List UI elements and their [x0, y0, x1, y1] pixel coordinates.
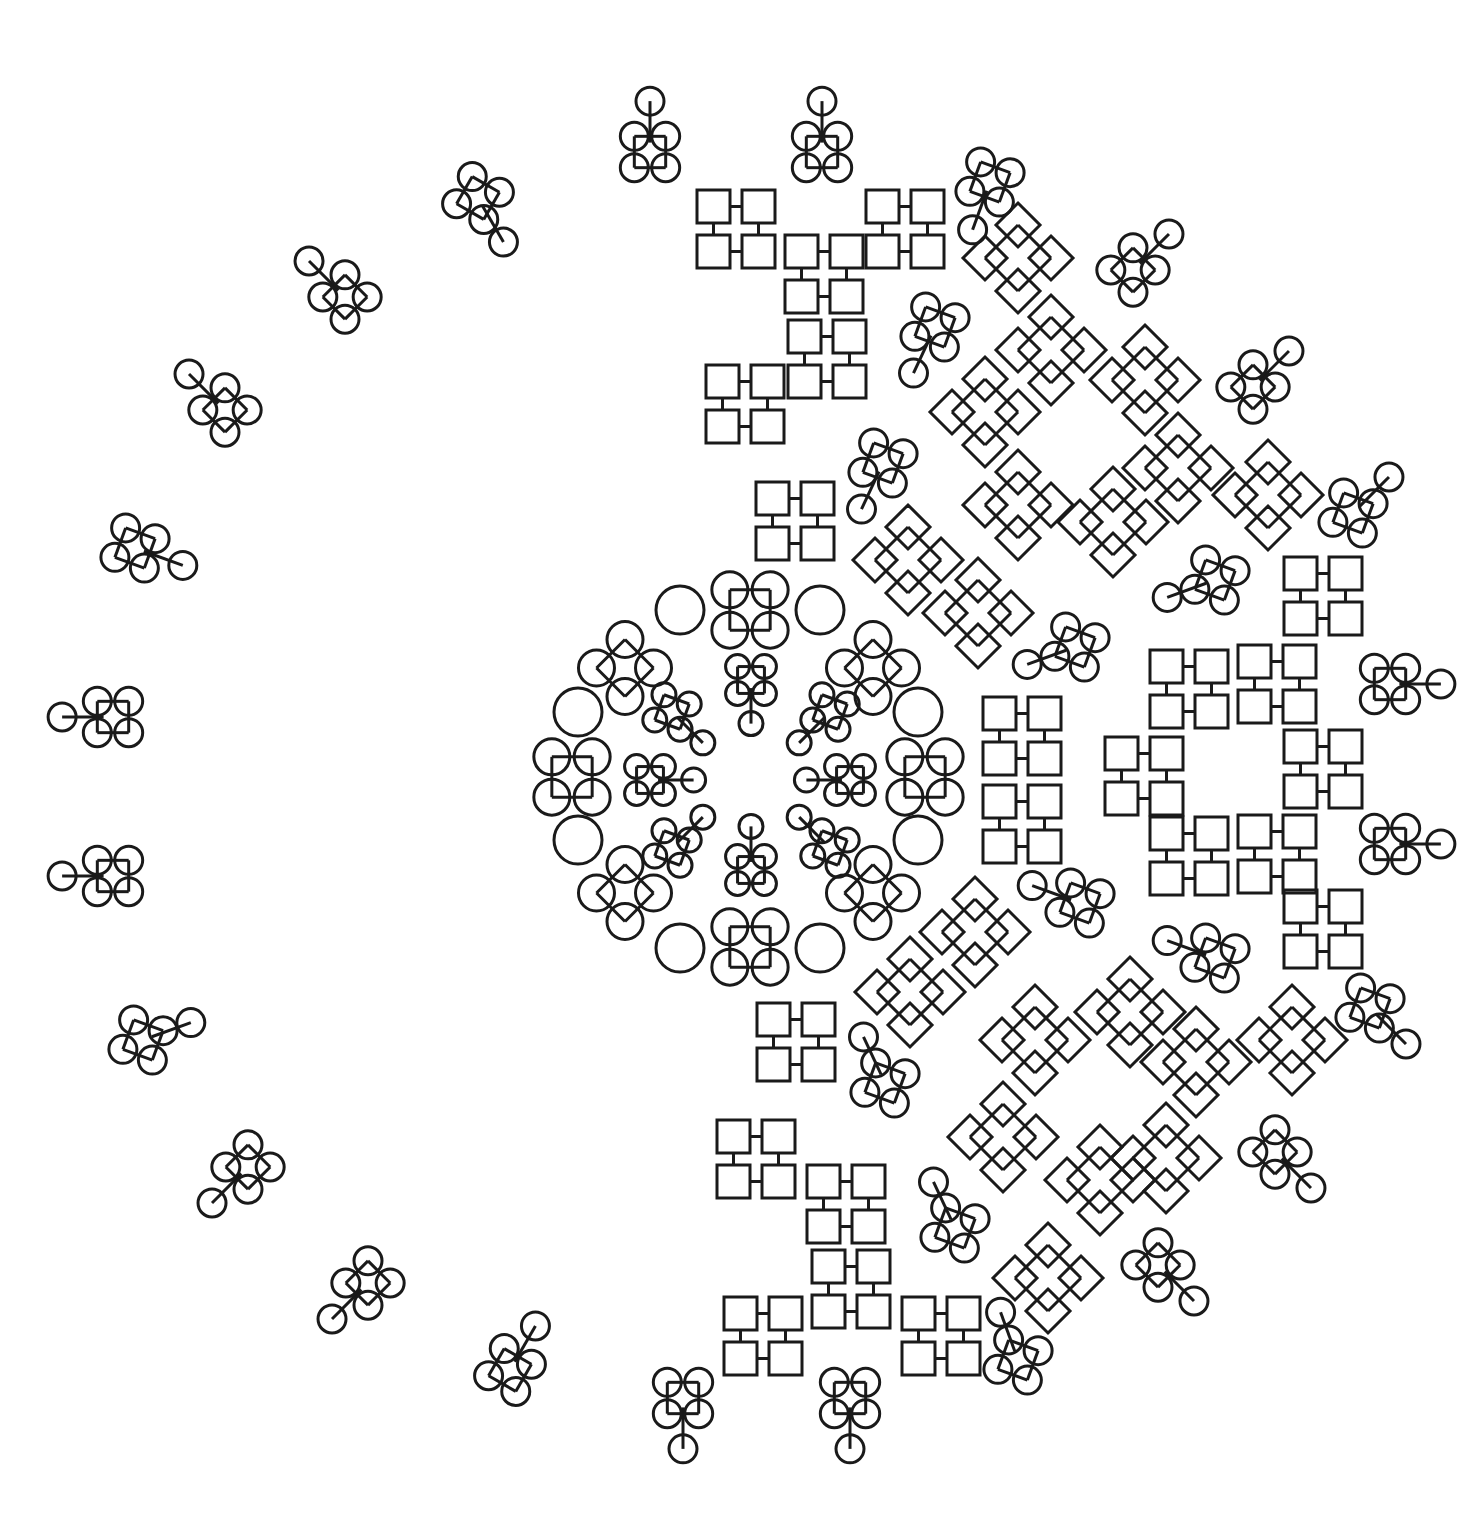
- square-node: [751, 365, 784, 398]
- square-node: [902, 1342, 935, 1375]
- square-node: [1105, 782, 1138, 815]
- connector-line: [1111, 248, 1133, 270]
- circle-cluster: [792, 87, 851, 182]
- circle-cluster: [820, 1368, 879, 1463]
- circle-cluster: [109, 1006, 205, 1074]
- square-node: [756, 482, 789, 515]
- diamond-cluster: [1213, 440, 1323, 550]
- square-node: [812, 1295, 845, 1328]
- diamond-cluster: [923, 558, 1033, 668]
- diamond-cluster: [930, 357, 1040, 467]
- ring-bridge-circle: [554, 816, 602, 864]
- connector-line: [346, 1261, 368, 1283]
- ring-inner-cluster: [726, 655, 777, 736]
- square-cluster: [1284, 890, 1362, 968]
- square-node: [1283, 690, 1316, 723]
- square-node: [706, 365, 739, 398]
- square-node: [1028, 697, 1061, 730]
- ring-inner-cluster: [625, 755, 706, 806]
- square-node: [947, 1342, 980, 1375]
- square-node: [1028, 830, 1061, 863]
- square-node: [812, 1250, 845, 1283]
- connector-line: [248, 1145, 270, 1167]
- circle-cluster: [475, 1312, 550, 1405]
- square-node: [1028, 785, 1061, 818]
- circle-cluster: [848, 429, 918, 523]
- connector-line: [368, 1261, 390, 1283]
- square-node: [801, 482, 834, 515]
- square-node: [757, 1048, 790, 1081]
- circle-clusters: [48, 87, 1455, 1463]
- connector-line: [625, 893, 654, 922]
- connector-line: [248, 1167, 270, 1189]
- square-node: [1283, 645, 1316, 678]
- circle-cluster: [1360, 654, 1455, 713]
- ring-bridge-circle: [656, 586, 704, 634]
- connector-line: [873, 668, 902, 697]
- connector-line: [596, 639, 625, 668]
- connector-line: [1253, 1130, 1275, 1152]
- square-node: [785, 235, 818, 268]
- diamond-cluster: [920, 877, 1030, 987]
- square-cluster: [724, 1297, 802, 1375]
- circle-cluster: [48, 687, 143, 746]
- circle-cluster: [1360, 814, 1455, 873]
- ring-inner-cluster: [643, 683, 715, 755]
- square-node: [769, 1297, 802, 1330]
- spoke-circle-node: [177, 1009, 205, 1037]
- square-node: [1283, 860, 1316, 893]
- connector-line: [596, 668, 625, 697]
- square-node: [762, 1165, 795, 1198]
- circle-cluster: [900, 293, 970, 387]
- connector-line: [1158, 1243, 1180, 1265]
- square-node: [785, 280, 818, 313]
- circle-cluster: [1319, 463, 1403, 547]
- square-cluster: [706, 365, 784, 443]
- square-node: [1150, 817, 1183, 850]
- connector-line: [1253, 1152, 1275, 1174]
- square-node: [697, 235, 730, 268]
- spoke-circle-node: [489, 228, 517, 256]
- square-node: [852, 1165, 885, 1198]
- square-node: [1284, 890, 1317, 923]
- square-node: [983, 697, 1016, 730]
- square-node: [1329, 890, 1362, 923]
- circle-cluster: [1153, 924, 1249, 992]
- square-node: [902, 1297, 935, 1330]
- connector-line: [625, 668, 654, 697]
- diamond-cluster: [1237, 985, 1347, 1095]
- square-node: [802, 1003, 835, 1036]
- circle-cluster: [48, 846, 143, 905]
- ring-bridge-circle: [796, 586, 844, 634]
- diamond-cluster: [855, 937, 965, 1047]
- square-cluster: [697, 190, 775, 268]
- square-cluster: [1150, 650, 1228, 728]
- connector-line: [873, 639, 902, 668]
- connector-line: [596, 893, 625, 922]
- center-ring: [534, 572, 963, 985]
- connector-line: [1231, 365, 1253, 387]
- circle-cluster: [653, 1368, 712, 1463]
- square-node: [751, 410, 784, 443]
- connector-line: [226, 1145, 248, 1167]
- connector-line: [1111, 270, 1133, 292]
- square-node: [1283, 815, 1316, 848]
- connector-line: [1136, 1243, 1158, 1265]
- connector-line: [625, 639, 654, 668]
- square-node: [866, 235, 899, 268]
- square-node: [1238, 690, 1271, 723]
- square-cluster: [756, 482, 834, 560]
- square-node: [947, 1297, 980, 1330]
- square-cluster: [812, 1250, 890, 1328]
- connector-line: [203, 410, 225, 432]
- square-cluster: [807, 1165, 885, 1243]
- square-cluster: [1105, 737, 1183, 815]
- square-node: [1195, 862, 1228, 895]
- circle-cluster: [1122, 1229, 1208, 1315]
- connector-line: [323, 297, 345, 319]
- ring-bridge-circle: [894, 816, 942, 864]
- square-node: [697, 190, 730, 223]
- connector-line: [596, 864, 625, 893]
- square-node: [1284, 775, 1317, 808]
- square-node: [983, 742, 1016, 775]
